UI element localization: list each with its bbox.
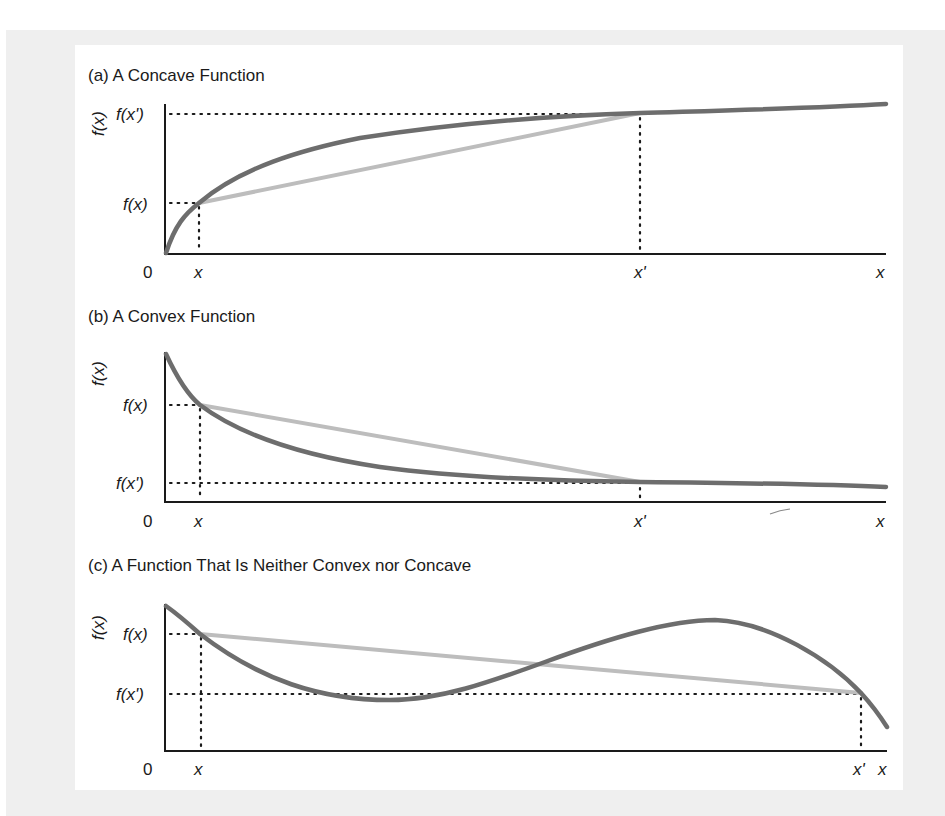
panel-a-x-axis-label: x [875, 263, 885, 282]
figure-svg: (a) A Concave Function f(x) f(x') f(x) 0… [0, 0, 945, 816]
panel-c-x-axis-label: x [877, 760, 887, 779]
panel-a-xtick-x: x [193, 263, 203, 282]
panel-b-xtick-x: x [193, 512, 203, 531]
panel-b-y-axis-label: f(x) [89, 361, 108, 386]
panel-a-axes [165, 104, 886, 254]
panel-c-xtick-x: x [193, 760, 203, 779]
panel-a-xtick-origin: 0 [143, 263, 152, 282]
panel-c-ytick-fxprime: f(x') [116, 685, 144, 704]
panel-b-xtick-origin: 0 [143, 512, 152, 531]
panel-b-title: (b) A Convex Function [88, 307, 255, 326]
panel-b-ytick-fx: f(x) [123, 396, 148, 415]
panel-a-y-axis-label: f(x) [89, 111, 108, 136]
panel-b-ytick-fxprime: f(x') [116, 474, 144, 493]
panel-a-curve [166, 104, 886, 253]
panel-c-chord [200, 634, 861, 693]
panel-b-curve [166, 354, 886, 487]
panel-a-chord [199, 113, 640, 203]
panel-b-xtick-xprime: x' [633, 512, 647, 531]
panel-c-xtick-xprime: x' [852, 760, 866, 779]
panel-c-title: (c) A Function That Is Neither Convex no… [88, 556, 471, 575]
panel-a-title: (a) A Concave Function [88, 66, 265, 85]
panel-a-concave: (a) A Concave Function f(x) f(x') f(x) 0… [88, 66, 886, 282]
panel-c-y-axis-label: f(x) [89, 615, 108, 640]
panel-c-ytick-fx: f(x) [123, 625, 148, 644]
panel-c-xtick-origin: 0 [143, 760, 152, 779]
stray-mark [770, 509, 790, 514]
panel-c-curve [166, 606, 887, 727]
panel-b-x-axis-label: x [875, 512, 885, 531]
panel-b-convex: (b) A Convex Function f(x) f(x) f(x') 0 … [88, 307, 886, 531]
panel-a-xtick-xprime: x' [633, 263, 647, 282]
panel-a-ytick-fx: f(x) [123, 195, 148, 214]
panel-a-ytick-fxprime: f(x') [116, 105, 144, 124]
panel-c-neither: (c) A Function That Is Neither Convex no… [88, 556, 887, 779]
